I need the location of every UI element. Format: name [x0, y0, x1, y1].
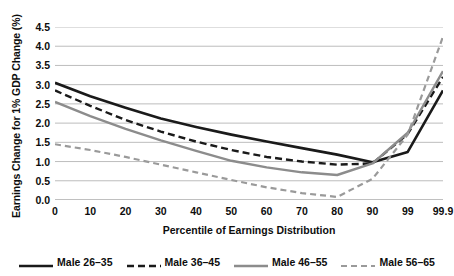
x-axis-tick-label: 99 [402, 205, 414, 217]
y-axis-tick-label: 1.5 [24, 137, 50, 147]
chart-figure: Earnings Change for 1% GDP Change (%) 0.… [0, 0, 454, 276]
x-axis-tick-label: 70 [296, 205, 308, 217]
x-axis-tick-label: 40 [190, 205, 202, 217]
legend-item-1[interactable]: Male 36–45 [127, 256, 220, 268]
x-axis-tick-label: 80 [331, 205, 343, 217]
y-axis-tick-label: 0.5 [24, 176, 50, 186]
y-axis-tick-label: 3.0 [24, 80, 50, 90]
x-axis-tick-label: 20 [120, 205, 132, 217]
series-lines [55, 37, 443, 197]
series-line-0 [55, 83, 443, 163]
x-axis-tick-labels: 01020304050607080909999.9 [55, 205, 443, 219]
legend-swatch-icon [341, 257, 375, 267]
series-line-3 [55, 37, 443, 197]
plot-area [55, 27, 443, 200]
x-axis-tick-label: 50 [226, 205, 238, 217]
legend-label: Male 56–65 [379, 256, 434, 268]
x-axis-tick-label: 30 [155, 205, 167, 217]
y-axis-tick-label: 2.5 [24, 99, 50, 109]
legend-label: Male 26–35 [57, 256, 112, 268]
y-axis-tick-label: 3.5 [24, 60, 50, 70]
legend-swatch-icon [234, 257, 268, 267]
y-axis-tick-labels: 0.00.51.01.52.02.53.03.54.04.5 [22, 0, 50, 276]
chart-legend: Male 26–35Male 36–45Male 46–55Male 56–65 [0, 252, 454, 272]
y-axis-tick-label: 0.0 [24, 195, 50, 205]
legend-item-2[interactable]: Male 46–55 [234, 256, 327, 268]
x-axis-tick-label: 60 [261, 205, 273, 217]
y-axis-tick-label: 2.0 [24, 118, 50, 128]
legend-swatch-icon [127, 257, 161, 267]
y-axis-tick-label: 4.5 [24, 22, 50, 32]
x-axis-tick-label: 0 [52, 205, 58, 217]
legend-label: Male 36–45 [165, 256, 220, 268]
x-axis-tick-label: 10 [84, 205, 96, 217]
x-axis-title: Percentile of Earnings Distribution [55, 224, 443, 236]
legend-item-0[interactable]: Male 26–35 [19, 256, 112, 268]
y-axis-tick-label: 1.0 [24, 157, 50, 167]
legend-label: Male 46–55 [272, 256, 327, 268]
legend-swatch-icon [19, 257, 53, 267]
x-axis-tick-label: 99.9 [433, 205, 453, 217]
legend-item-3[interactable]: Male 56–65 [341, 256, 434, 268]
chart-canvas [55, 27, 443, 200]
y-axis-tick-label: 4.0 [24, 41, 50, 51]
x-axis-tick-label: 90 [367, 205, 379, 217]
